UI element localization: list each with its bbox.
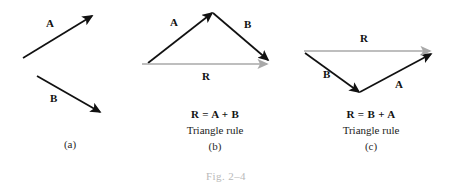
panel-c-rule: Triangle rule — [290, 124, 452, 136]
panel-a-caption: (a) — [0, 138, 140, 150]
vector-r-label: R — [360, 33, 368, 44]
vector-a-label: A — [46, 18, 54, 29]
vector-a-label: A — [170, 17, 178, 28]
panel-c: R B A R = B + A Triangle rule (c) — [290, 0, 452, 192]
vector-b-arrow — [305, 53, 359, 92]
vector-b-label: B — [50, 93, 57, 104]
panel-c-letter: (c) — [290, 140, 452, 152]
vector-a-arrow — [23, 16, 92, 58]
panel-c-diagram — [290, 0, 452, 192]
panel-b: A B R R = A + B Triangle rule (b) — [140, 0, 290, 192]
figure-number-label: Fig. 2–4 — [0, 170, 452, 182]
vector-b-label: B — [244, 19, 251, 30]
vector-a-label: A — [395, 79, 403, 90]
panel-b-caption: R = A + B Triangle rule (b) — [140, 108, 290, 152]
panel-a-letter: (a) — [0, 138, 140, 150]
panel-b-letter: (b) — [140, 140, 290, 152]
panel-b-equation: R = A + B — [140, 108, 290, 120]
vector-b-arrow — [213, 13, 268, 60]
vector-b-arrow — [37, 76, 100, 112]
panel-a-diagram — [0, 0, 140, 192]
vector-a-arrow — [148, 13, 212, 63]
panel-c-equation: R = B + A — [290, 108, 452, 120]
panel-b-diagram — [140, 0, 290, 192]
vector-addition-figure: A B (a) A B R R = A + B Triangle rul — [0, 0, 452, 192]
panel-c-caption: R = B + A Triangle rule (c) — [290, 108, 452, 152]
panel-a: A B (a) — [0, 0, 140, 192]
vector-b-label: B — [323, 69, 330, 80]
panel-b-rule: Triangle rule — [140, 124, 290, 136]
vector-r-label: R — [202, 71, 210, 82]
